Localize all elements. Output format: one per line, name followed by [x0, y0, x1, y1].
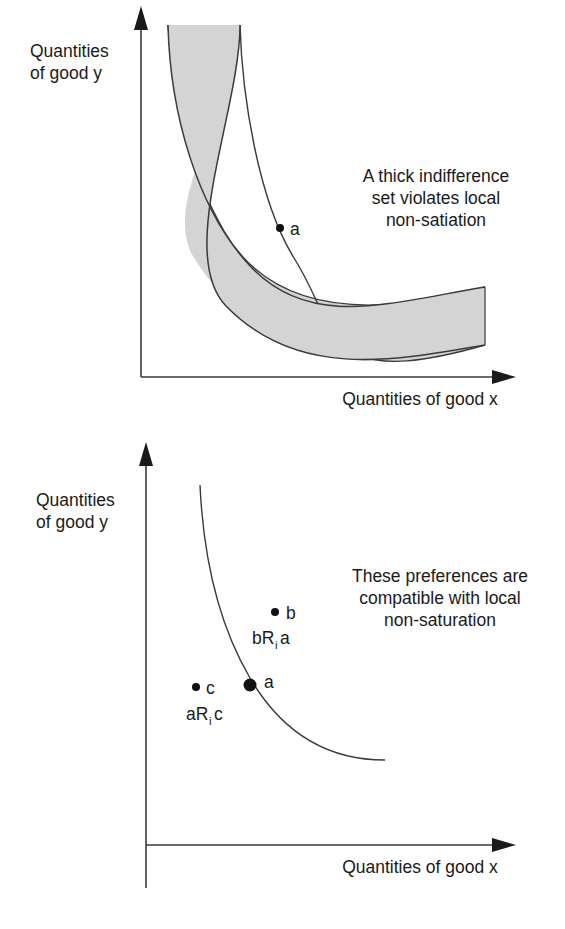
relation-a-prefers-c-suffix: c [214, 704, 223, 724]
point-a-marker [276, 224, 284, 232]
relation-b-prefers-a-suffix: a [280, 628, 290, 648]
point-a-label: a [264, 672, 274, 692]
caption-line-1: These preferences are [352, 566, 528, 586]
y-axis-label-line1: Quantities [30, 41, 109, 61]
y-axis-arrowhead [134, 6, 148, 30]
point-b-marker [271, 608, 279, 616]
point-c-label: c [206, 678, 215, 698]
point-b-label: b [286, 603, 296, 623]
caption-line-3: non-satiation [386, 210, 486, 230]
x-axis-arrowhead [492, 838, 516, 852]
relation-a-prefers-c-prefix: aR [186, 704, 208, 724]
caption-line-2: compatible with local [359, 588, 520, 608]
x-axis-arrowhead [492, 370, 516, 384]
compatible-preferences-svg: b bR i a a c aR i c Quantities of good y [0, 430, 565, 929]
relation-a-prefers-c: aR i c [186, 704, 223, 727]
caption-line-3: non-saturation [384, 610, 496, 630]
y-axis-label-line2: of good y [36, 512, 108, 532]
x-axis-label: Quantities of good x [342, 857, 498, 877]
figure-compatible-preferences: b bR i a a c aR i c Quantities of good y [0, 430, 565, 929]
y-axis-label-line1: Quantities [36, 490, 115, 510]
figure-thick-indifference-set: a Quantities of good y Quantities of goo… [0, 0, 565, 430]
figure-page: a Quantities of good y Quantities of goo… [0, 0, 565, 929]
relation-b-prefers-a-subscript: i [275, 639, 278, 651]
relation-a-prefers-c-subscript: i [209, 715, 212, 727]
x-axis-label: Quantities of good x [342, 389, 498, 409]
y-axis-arrowhead [139, 442, 153, 466]
y-axis-label-line2: of good y [30, 63, 102, 83]
point-a-label: a [290, 219, 300, 239]
caption-line-2: set violates local [372, 188, 500, 208]
relation-b-prefers-a: bR i a [252, 628, 290, 651]
thick-set-svg: a Quantities of good y Quantities of goo… [0, 0, 565, 430]
point-c-marker [192, 683, 200, 691]
caption-line-1: A thick indifference [363, 166, 510, 186]
relation-b-prefers-a-prefix: bR [252, 628, 274, 648]
point-a-marker [244, 679, 257, 692]
